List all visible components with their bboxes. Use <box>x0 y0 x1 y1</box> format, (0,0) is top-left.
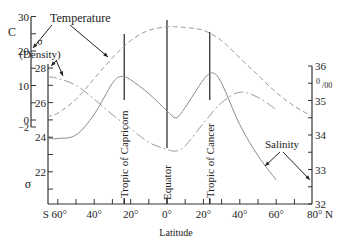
density-label: (Density) <box>19 48 61 61</box>
x-tick-label: 20° <box>123 208 138 220</box>
salinity-tick-label: 36 <box>315 60 327 72</box>
reference-line-label: Tropic of Cancer <box>204 123 216 198</box>
temperature-tick-label: 30 <box>18 11 30 23</box>
density-axis-label: σ <box>25 177 32 191</box>
density-tick-label: 24 <box>35 131 47 143</box>
reference-line-label: Tropic of Capricorn <box>118 110 130 198</box>
density-sigma-label: σ <box>37 36 43 47</box>
x-tick-label: 40° <box>232 208 247 220</box>
temperature-label: Temperature <box>50 11 110 25</box>
x-tick-label: S 60° <box>43 208 67 220</box>
x-tick-label: 40° <box>86 208 101 220</box>
temperature-tick-label: −2 <box>18 122 29 133</box>
salinity-unit-label: /00 <box>322 81 332 90</box>
temperature-tick-label: 10 <box>18 80 30 92</box>
ocean-profile-chart: S 60°40°20°0°20°40°60°80° NLatitude30201… <box>0 0 349 244</box>
x-axis-label: Latitude <box>159 227 193 238</box>
reference-line-label: Equator <box>161 165 173 200</box>
density-tick-label: 22 <box>35 166 46 178</box>
salinity-tick-label: 32 <box>315 198 326 210</box>
temperature-curve <box>47 27 313 117</box>
x-tick-label: 60° <box>268 208 283 220</box>
x-tick-label: 20° <box>196 208 211 220</box>
salinity-tick-label: 34 <box>315 129 327 141</box>
salinity-arrow <box>283 152 310 180</box>
salinity-tick-label: 33 <box>315 164 327 176</box>
temperature-unit-label: C <box>8 25 16 39</box>
density-tick-label: 28 <box>35 62 47 74</box>
density-curve <box>47 77 276 152</box>
density-tick-label: 26 <box>35 97 47 109</box>
salinity-label: Salinity <box>265 138 300 150</box>
salinity-tick-label: 35 <box>315 95 327 107</box>
x-tick-label: 0° <box>162 208 172 220</box>
salinity-unit-label: 0 <box>316 77 320 86</box>
temperature-arrow <box>70 25 108 57</box>
